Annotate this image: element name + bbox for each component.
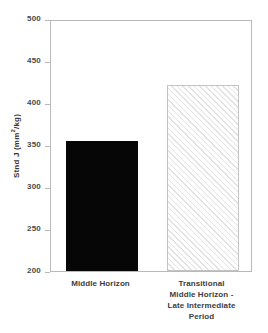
y-axis-tick-label: 300: [27, 182, 41, 191]
y-axis-tick: 400: [0, 104, 50, 105]
x-axis-category-label-line: Late Intermediate: [150, 300, 254, 311]
bar-chart: Stnd J (mm2/kg) 500450400350300250200 Mi…: [0, 0, 268, 333]
x-axis-category-label: Middle Horizon: [49, 278, 153, 289]
x-axis-category-label-line: Middle Horizon: [49, 278, 153, 289]
x-axis-category-label: TransitionalMiddle Horizon -Late Interme…: [150, 278, 254, 322]
y-axis-tick: 300: [0, 188, 50, 189]
y-axis-tick: 450: [0, 62, 50, 63]
y-axis-tick: 500: [0, 20, 50, 21]
y-axis-tick-label: 500: [27, 14, 41, 23]
x-axis-category-label-line: Transitional: [150, 278, 254, 289]
y-axis-title-suffix: /kg): [12, 114, 21, 129]
plot-area: [50, 20, 252, 272]
y-axis-tick-label: 400: [27, 98, 41, 107]
y-axis-tick-label: 200: [27, 266, 41, 275]
y-axis-tick: 250: [0, 230, 50, 231]
y-axis-tick-label: 450: [27, 56, 41, 65]
x-axis-category-label-line: Period: [150, 311, 254, 322]
y-axis-title-exponent: 2: [10, 129, 16, 133]
y-axis-tick-label: 250: [27, 224, 41, 233]
y-axis-tick: 200: [0, 272, 50, 273]
y-axis-tick-label: 350: [27, 140, 41, 149]
y-axis-tick: 350: [0, 146, 50, 147]
y-axis-title-prefix: Stnd J (mm: [12, 133, 21, 179]
x-axis-category-label-line: Middle Horizon -: [150, 289, 254, 300]
bar: [167, 85, 239, 271]
bar: [66, 141, 138, 271]
y-axis-tick-mark: [45, 272, 50, 273]
